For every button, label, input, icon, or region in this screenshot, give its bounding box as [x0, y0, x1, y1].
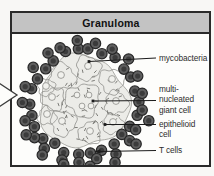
granuloma-figure: Granuloma mycobacteria multi- nucleated … [0, 0, 214, 176]
diagram-title-bar: Granuloma [12, 13, 209, 34]
label-giant-cell: multi- nucleated giant cell [159, 84, 194, 115]
label-t-cells: T cells [159, 145, 182, 155]
label-mycobacteria: mycobacteria [159, 53, 207, 63]
label-epithelioid-cell: epithelioid cell [159, 119, 195, 140]
diagram-title: Granuloma [82, 14, 139, 33]
